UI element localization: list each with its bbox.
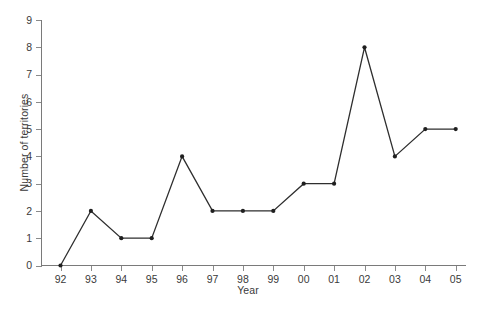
data-point-markers: [58, 45, 457, 267]
y-tick-label: 7: [26, 68, 32, 80]
data-point-marker: [210, 209, 214, 213]
data-point-marker: [393, 154, 397, 158]
x-tick-label: 98: [237, 273, 249, 285]
data-point-marker: [119, 236, 123, 240]
data-point-marker: [241, 209, 245, 213]
x-tick-label: 96: [176, 273, 188, 285]
x-tick-label: 93: [85, 273, 97, 285]
data-point-marker: [454, 127, 458, 131]
data-point-marker: [362, 45, 366, 49]
y-tick-label: 1: [26, 232, 32, 244]
y-tick-label: 4: [26, 150, 32, 162]
x-tick-label: 97: [207, 273, 219, 285]
y-tick-label: 3: [26, 177, 32, 189]
data-point-marker: [89, 209, 93, 213]
y-tick-label: 5: [26, 123, 32, 135]
x-tick-label: 92: [55, 273, 67, 285]
x-tick-label: 05: [450, 273, 462, 285]
plot-area: 0123456789 9293949596979899000102030405: [0, 0, 483, 309]
x-tick-label: 95: [146, 273, 158, 285]
y-tick-label: 9: [26, 14, 32, 26]
data-point-marker: [302, 182, 306, 186]
data-point-marker: [180, 154, 184, 158]
x-tick-label: 02: [359, 273, 371, 285]
x-tick-label: 99: [267, 273, 279, 285]
y-tick-label: 8: [26, 41, 32, 53]
x-tick-label: 04: [419, 273, 431, 285]
y-tick-label: 2: [26, 205, 32, 217]
x-tick-label: 01: [328, 273, 340, 285]
data-point-marker: [150, 236, 154, 240]
x-tick-label: 94: [115, 273, 127, 285]
y-tick-label: 6: [26, 96, 32, 108]
data-point-marker: [332, 182, 336, 186]
data-point-marker: [423, 127, 427, 131]
x-tick-label: 00: [298, 273, 310, 285]
y-axis-ticks: 0123456789: [26, 14, 41, 272]
y-tick-label: 0: [26, 259, 32, 271]
data-point-marker: [58, 263, 62, 267]
line-chart: Number of territories Year 0123456789 92…: [0, 0, 483, 309]
data-point-marker: [271, 209, 275, 213]
x-axis-ticks: 9293949596979899000102030405: [55, 266, 462, 286]
x-tick-label: 03: [389, 273, 401, 285]
